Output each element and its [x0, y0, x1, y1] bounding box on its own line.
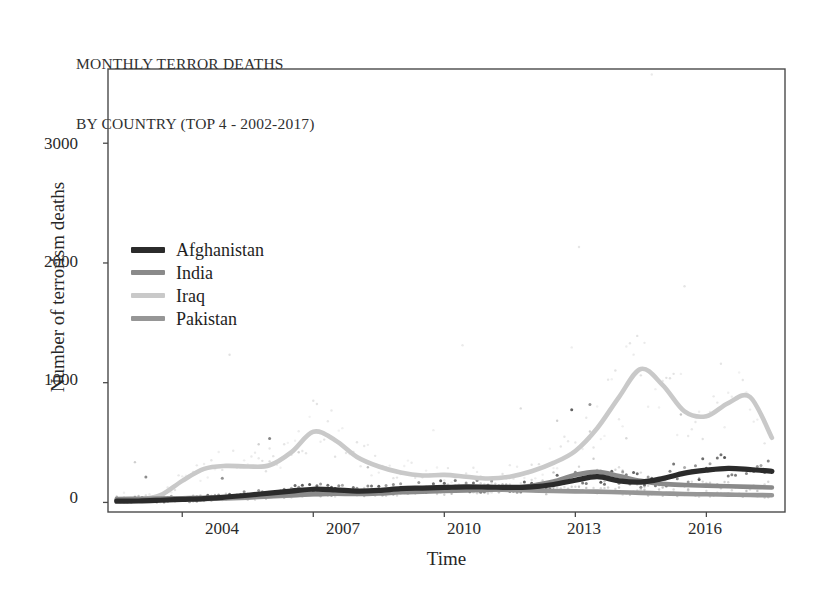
x-tick-label-2013: 2013: [549, 519, 619, 539]
y-tick-label-2000: 2000: [18, 252, 78, 272]
legend-label-iraq: Iraq: [176, 287, 205, 305]
x-tick-label-2016: 2016: [670, 519, 740, 539]
legend-label-afghanistan: Afghanistan: [176, 241, 264, 259]
x-axis-label: Time: [108, 548, 785, 570]
legend-swatch-afghanistan: [131, 247, 165, 253]
axis-ticks: [103, 143, 706, 517]
legend-label-pakistan: Pakistan: [176, 310, 237, 328]
legend-swatch-india: [131, 270, 165, 275]
chart-title: MONTHLY TERROR DEATHS BY COUNTRY (TOP 4 …: [76, 14, 315, 174]
legend-swatch-pakistan: [131, 316, 165, 321]
legend-swatch-iraq: [131, 293, 165, 298]
legend-item-pakistan: Pakistan: [131, 307, 264, 330]
legend-item-india: India: [131, 261, 264, 284]
legend-item-afghanistan: Afghanistan: [131, 238, 264, 261]
legend-item-iraq: Iraq: [131, 284, 264, 307]
chart-legend: Afghanistan India Iraq Pakistan: [131, 238, 264, 330]
y-tick-label-1000: 1000: [18, 370, 78, 390]
y-tick-label-0: 0: [18, 488, 78, 508]
chart-figure: MONTHLY TERROR DEATHS BY COUNTRY (TOP 4 …: [0, 0, 818, 596]
y-tick-label-3000: 3000: [18, 134, 78, 154]
chart-title-line-2: BY COUNTRY (TOP 4 - 2002-2017): [76, 114, 315, 134]
chart-title-line-1: MONTHLY TERROR DEATHS: [76, 54, 315, 74]
x-tick-label-2010: 2010: [429, 519, 499, 539]
x-tick-label-2007: 2007: [308, 519, 378, 539]
x-tick-label-2004: 2004: [187, 519, 257, 539]
legend-label-india: India: [176, 264, 213, 282]
